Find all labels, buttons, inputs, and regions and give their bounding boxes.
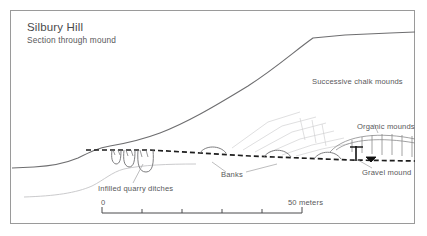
label-successive-chalk-mounds: Successive chalk mounds [312,77,403,86]
leader-banks-right [246,164,277,172]
page-title: Silbury Hill [27,21,83,33]
figure-subtitle: Section through mound [27,35,116,45]
label-organic-mounds: Organic mounds [357,122,415,131]
figure-root: Silbury Hill Section through mound Succe… [0,0,427,236]
organic-mound [330,134,415,157]
label-banks: Banks [221,170,243,179]
leader-lines [133,124,378,183]
scale-bar-start-label: 0 [101,198,105,207]
quarry-ditches [112,150,154,172]
label-gravel-mound: Gravel mound [362,168,412,177]
label-infilled-quarry-ditches: Infilled quarry ditches [98,184,173,193]
scale-bar-end-label: 50 meters [288,198,323,207]
strata-fan-lines [232,112,352,156]
scale-bar [102,207,302,213]
